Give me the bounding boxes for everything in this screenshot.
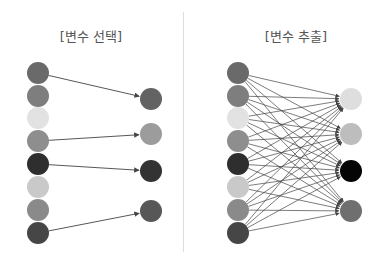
extraction-input-node-7 — [227, 199, 249, 221]
extraction-output-node-1 — [340, 88, 362, 110]
selection-edge — [49, 165, 139, 171]
extraction-input-node-3 — [227, 107, 249, 129]
selection-input-node-3 — [27, 107, 49, 129]
extraction-edge — [249, 189, 340, 208]
extraction-input-node-1 — [227, 62, 249, 84]
extraction-edges — [245, 75, 343, 230]
selection-input-node-5 — [27, 153, 49, 175]
extraction-nodes — [227, 62, 362, 244]
extraction-edge — [248, 100, 339, 131]
extraction-edge — [248, 168, 340, 206]
extraction-output-node-2 — [340, 123, 362, 145]
selection-edges — [49, 75, 140, 230]
extraction-edge — [247, 106, 342, 180]
network-diagram — [0, 0, 387, 264]
extraction-input-node-6 — [227, 176, 249, 198]
selection-nodes — [27, 62, 162, 244]
extraction-edge — [248, 177, 341, 228]
selection-input-node-4 — [27, 130, 49, 152]
extraction-edge — [249, 165, 339, 171]
extraction-input-node-2 — [227, 85, 249, 107]
selection-output-node-4 — [140, 200, 162, 222]
selection-output-node-2 — [140, 123, 162, 145]
extraction-edge — [249, 213, 339, 231]
selection-input-node-2 — [27, 85, 49, 107]
extraction-edge — [247, 141, 341, 204]
extraction-input-node-5 — [227, 153, 249, 175]
extraction-input-node-4 — [227, 130, 249, 152]
selection-input-node-6 — [27, 176, 49, 198]
extraction-edge — [249, 135, 339, 141]
extraction-edge — [249, 96, 339, 98]
extraction-input-node-8 — [227, 222, 249, 244]
extraction-output-node-4 — [340, 200, 362, 222]
selection-input-node-1 — [27, 62, 49, 84]
extraction-edge — [248, 123, 340, 166]
selection-output-node-3 — [140, 160, 162, 182]
selection-edge — [49, 213, 139, 231]
selection-input-node-7 — [27, 199, 49, 221]
extraction-output-node-3 — [340, 160, 362, 182]
selection-edge — [49, 135, 139, 141]
selection-input-node-8 — [27, 222, 49, 244]
selection-output-node-1 — [140, 88, 162, 110]
extraction-edge — [249, 210, 339, 211]
selection-edge — [49, 75, 140, 96]
